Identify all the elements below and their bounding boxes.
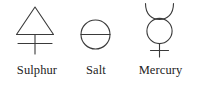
salt-alchemical-symbol-icon bbox=[72, 0, 120, 66]
label-row: Sulphur Salt Mercury bbox=[0, 62, 199, 86]
mercury-alchemical-symbol-icon bbox=[130, 0, 190, 66]
sulphur-label: Sulphur bbox=[0, 62, 74, 78]
alchemical-symbols-figure: Sulphur Salt Mercury bbox=[0, 0, 199, 92]
symbol-row bbox=[0, 0, 199, 66]
salt-symbol-cell bbox=[72, 0, 120, 66]
sulphur-symbol-cell bbox=[5, 0, 67, 66]
mercury-symbol-cell bbox=[130, 0, 190, 66]
sulphur-alchemical-symbol-icon bbox=[5, 0, 67, 66]
salt-label: Salt bbox=[70, 62, 122, 78]
mercury-label: Mercury bbox=[122, 62, 199, 78]
